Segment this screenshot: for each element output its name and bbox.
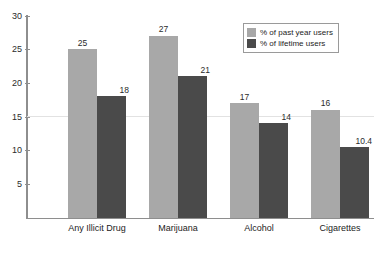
bar[interactable]: 10.4 <box>340 147 369 217</box>
bar-value-label: 25 <box>78 39 87 48</box>
x-axis-category-label: Cigarettes <box>319 224 360 233</box>
x-axis-category-label: Alcohol <box>244 224 274 233</box>
y-axis-tick-label: 25 <box>12 45 22 54</box>
legend-item[interactable]: % of past year users <box>247 27 333 38</box>
y-axis-tick-label: 20 <box>12 78 22 87</box>
bar[interactable]: 25 <box>68 49 97 217</box>
y-axis-tick-mark <box>25 117 30 118</box>
y-axis-tick-mark <box>25 49 30 50</box>
bar[interactable]: 18 <box>97 96 126 217</box>
y-axis-tick-label: 10 <box>12 146 22 155</box>
bar-value-label: 21 <box>201 66 210 75</box>
legend-color-swatch <box>247 28 256 37</box>
bar-group: 2721Marijuana <box>149 16 207 218</box>
bar[interactable]: 16 <box>311 110 340 218</box>
y-axis-tick-mark <box>25 184 30 185</box>
y-axis-tick-label: 5 <box>17 179 22 188</box>
bar[interactable]: 21 <box>178 76 207 217</box>
bar[interactable]: 17 <box>230 103 259 217</box>
bar-value-label: 10.4 <box>355 137 372 146</box>
bar-value-label: 16 <box>321 99 330 108</box>
legend-item[interactable]: % of lifetime users <box>247 38 333 49</box>
x-axis-category-label: Any Illicit Drug <box>68 224 126 233</box>
y-axis-tick-label: 15 <box>12 112 22 121</box>
bar-group: 2518Any Illicit Drug <box>68 16 126 218</box>
legend-item-label: % of lifetime users <box>260 40 325 48</box>
legend-item-label: % of past year users <box>260 29 333 37</box>
y-axis-tick-label: 30 <box>12 11 22 20</box>
y-axis-tick-mark <box>25 83 30 84</box>
bar-value-label: 27 <box>159 25 168 34</box>
chart-legend: % of past year users% of lifetime users <box>243 23 339 53</box>
bar-chart: 51015202530 2518Any Illicit Drug2721Mari… <box>0 0 378 253</box>
bar-value-label: 17 <box>240 93 249 102</box>
bar-value-label: 18 <box>120 86 129 95</box>
bar[interactable]: 27 <box>149 36 178 218</box>
legend-color-swatch <box>247 39 256 48</box>
x-axis-category-label: Marijuana <box>158 224 198 233</box>
bar-value-label: 14 <box>282 113 291 122</box>
y-axis-tick-mark <box>25 150 30 151</box>
bar[interactable]: 14 <box>259 123 288 217</box>
x-axis-line <box>26 218 374 220</box>
y-axis-tick-mark <box>25 16 30 17</box>
